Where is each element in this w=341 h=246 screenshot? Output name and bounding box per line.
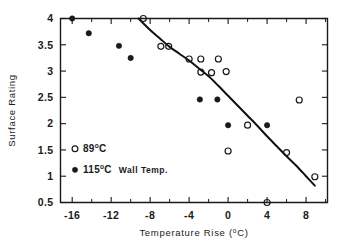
data-point-115c — [116, 43, 121, 48]
data-point-89c — [158, 43, 164, 49]
y-tick-label: 3.5 — [38, 39, 54, 51]
data-point-89c — [209, 70, 215, 76]
y-axis-title: Surface Rating — [6, 74, 17, 147]
legend-label: 115oCWall Temp. — [83, 163, 168, 175]
x-tick-label: 4 — [264, 209, 270, 221]
data-point-89c — [225, 148, 231, 154]
data-point-115c — [69, 16, 74, 21]
data-point-89c — [198, 56, 204, 62]
x-tick-label: -8 — [145, 209, 155, 221]
data-point-89c — [223, 69, 229, 75]
chart-legend: 89oC115oCWall Temp. — [72, 142, 168, 175]
y-tick-label: 2.5 — [38, 91, 54, 103]
series-115c-points — [69, 16, 269, 128]
legend-value: 115 — [83, 164, 100, 175]
legend-unit: C — [104, 164, 112, 175]
legend-unit: C — [99, 143, 107, 154]
x-tick-label: 8 — [303, 209, 309, 221]
y-axis-ticks — [61, 19, 328, 203]
y-tick-label: 2 — [47, 117, 53, 129]
legend-label: 89oC — [83, 142, 107, 154]
x-tick-label: 0 — [225, 209, 231, 221]
series-89c-points — [140, 16, 317, 206]
x-tick-label: -16 — [64, 209, 80, 221]
data-point-89c — [284, 150, 290, 156]
data-point-115c — [128, 55, 133, 60]
x-axis-title-tail: C) — [237, 227, 248, 238]
y-tick-label: 1 — [47, 170, 53, 182]
x-tick-label: -12 — [103, 209, 119, 221]
trend-curve-path — [138, 19, 314, 186]
scatter-chart-figure: -16-12-8-4048 0.511.522.533.54 89oC115oC… — [0, 0, 341, 246]
data-point-89c — [245, 122, 251, 128]
data-point-115c — [264, 123, 269, 128]
data-point-115c — [197, 97, 202, 102]
data-point-115c — [215, 97, 220, 102]
plot-border — [61, 19, 328, 203]
trend-curve — [138, 19, 314, 186]
legend-value: 89 — [83, 143, 95, 154]
x-axis-title: Temperature Rise (oC) — [139, 227, 248, 239]
legend-suffix: Wall Temp. — [119, 165, 168, 175]
x-axis-title-main: Temperature Rise ( — [139, 227, 233, 238]
x-axis-tick-labels: -16-12-8-4048 — [64, 209, 309, 221]
x-tick-label: -4 — [184, 209, 194, 221]
chart-svg: -16-12-8-4048 0.511.522.533.54 89oC115oC… — [0, 0, 341, 246]
data-point-115c — [86, 31, 91, 36]
legend-marker-open-circle — [72, 146, 78, 152]
data-point-89c — [312, 174, 318, 180]
y-tick-label: 1.5 — [38, 144, 54, 156]
y-axis-tick-labels: 0.511.522.533.54 — [38, 12, 54, 208]
data-point-115c — [225, 123, 230, 128]
y-tick-label: 4 — [47, 12, 53, 24]
y-tick-label: 0.5 — [38, 196, 54, 208]
data-point-89c — [215, 56, 221, 62]
legend-marker-filled-circle — [72, 167, 77, 172]
plot-frame — [61, 19, 328, 203]
y-tick-label: 3 — [47, 65, 53, 77]
data-point-89c — [296, 97, 302, 103]
